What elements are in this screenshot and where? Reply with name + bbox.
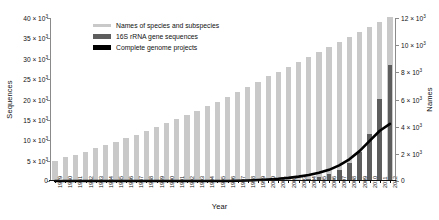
y-tick-label-right: 6 × 103	[401, 96, 422, 104]
x-tick-label: 1997	[240, 176, 246, 188]
x-axis-title: Year	[0, 202, 439, 211]
x-tick-label: 1991	[179, 176, 185, 188]
y-tick-right	[395, 127, 399, 128]
y-tick-label-left: 30 × 103	[23, 55, 48, 63]
plot-area: 05 × 10310 × 10315 × 10320 × 10325 × 103…	[50, 18, 395, 181]
y-tick-label-right: 0	[401, 177, 405, 184]
genome-line-series	[50, 18, 395, 181]
x-tick-label: 1996	[230, 176, 236, 188]
y-axis-right-line	[395, 18, 396, 181]
x-tick-label: 2009	[362, 176, 368, 188]
x-tick-label: 2002	[291, 176, 297, 188]
y-tick-label-left: 25 × 103	[23, 75, 48, 83]
x-tick-label: 1989	[159, 176, 165, 188]
y-axis-left-title: Sequences	[5, 70, 14, 130]
x-tick-label: 1982	[88, 176, 94, 188]
y-tick-label-right: 10 × 103	[401, 41, 426, 49]
x-tick-label: 1986	[128, 176, 134, 188]
y-tick-label-left: 15 × 103	[23, 116, 48, 124]
x-tick-label: 2007	[341, 176, 347, 188]
genome-line-path	[55, 124, 390, 181]
x-tick-label: 1998	[250, 176, 256, 188]
x-tick-label: 1994	[209, 176, 215, 188]
x-tick-label: 1984	[108, 176, 114, 188]
x-tick-label: 1995	[220, 176, 226, 188]
x-tick-label: 2001	[280, 176, 286, 188]
y-tick-label-left: 5 × 103	[27, 157, 48, 165]
x-tick-label: 2005	[321, 176, 327, 188]
x-axis-line	[49, 180, 396, 181]
x-tick-label: 2003	[301, 176, 307, 188]
x-tick-label: 1979	[57, 176, 63, 188]
chart-figure: Sequences Names Year Names of species an…	[0, 0, 439, 220]
y-tick-label-right: 12 × 103	[401, 14, 426, 22]
x-tick-label: 2008	[351, 176, 357, 188]
x-tick-label: 1993	[199, 176, 205, 188]
x-tick-label: 1980	[67, 176, 73, 188]
y-tick-label-left: 20 × 103	[23, 96, 48, 104]
x-tick-label: 1987	[138, 176, 144, 188]
y-tick-label-left: 40 × 103	[23, 14, 48, 22]
x-tick-label: 1985	[118, 176, 124, 188]
x-tick-label: 1988	[148, 176, 154, 188]
x-tick-label: 2004	[311, 176, 317, 188]
y-axis-left-line	[50, 18, 51, 181]
x-tick-label: 1999	[260, 176, 266, 188]
y-tick-label-right: 4 × 103	[401, 123, 422, 131]
x-tick-label: 2000	[270, 176, 276, 188]
x-tick-label: 1983	[98, 176, 104, 188]
x-tick-label: 1990	[169, 176, 175, 188]
y-tick-label-left: 0	[44, 177, 48, 184]
y-tick-label-left: 10 × 103	[23, 136, 48, 144]
x-tick-label: 1981	[77, 176, 83, 188]
y-tick-right	[395, 154, 399, 155]
x-tick-label: 2011	[382, 176, 388, 188]
x-tick-label: 2006	[331, 176, 337, 188]
y-tick-right	[395, 100, 399, 101]
x-tick-label: 1992	[189, 176, 195, 188]
y-tick-label-right: 8 × 103	[401, 68, 422, 76]
y-tick-right	[395, 18, 399, 19]
y-tick-label-left: 35 × 103	[23, 34, 48, 42]
y-tick-right	[395, 72, 399, 73]
x-tick-label: 2010	[372, 176, 378, 188]
y-axis-right-title: Names	[425, 70, 434, 130]
y-tick-right	[395, 45, 399, 46]
y-tick-label-right: 2 × 103	[401, 150, 422, 158]
